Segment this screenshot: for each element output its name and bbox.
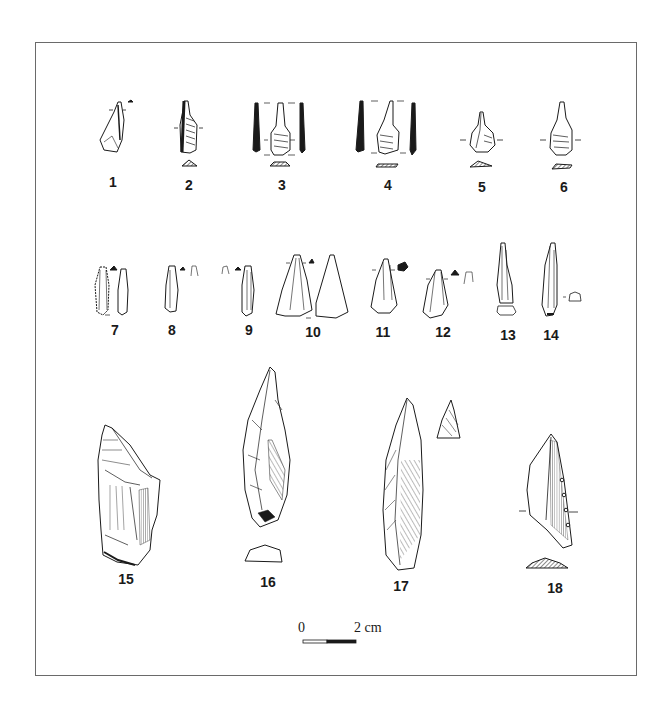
artifact-3	[253, 103, 305, 166]
artifact-label-15: 15	[118, 571, 134, 587]
artifact-label-1: 1	[109, 174, 117, 190]
artifact-12	[423, 270, 473, 318]
artifact-label-12: 12	[435, 324, 451, 340]
scale-start-label: 0	[298, 620, 305, 636]
artifact-label-17: 17	[393, 578, 409, 594]
artifact-label-13: 13	[500, 327, 516, 343]
artifact-15	[98, 425, 160, 565]
artifact-label-10: 10	[305, 324, 321, 340]
artifact-13	[497, 243, 516, 315]
artifact-7	[95, 266, 128, 315]
artifact-drawings	[0, 0, 671, 709]
artifact-label-7: 7	[111, 322, 119, 338]
artifact-label-3: 3	[278, 177, 286, 193]
artifact-label-16: 16	[260, 574, 276, 590]
artifact-2	[174, 101, 203, 166]
artifact-label-18: 18	[547, 580, 563, 596]
artifact-4	[356, 101, 416, 167]
artifact-1	[100, 100, 133, 152]
artifact-5	[460, 112, 503, 167]
artifact-11	[371, 259, 408, 313]
artifact-17	[383, 398, 460, 570]
artifact-label-6: 6	[560, 179, 568, 195]
artifact-label-8: 8	[168, 322, 176, 338]
artifact-label-14: 14	[543, 327, 559, 343]
artifact-label-9: 9	[245, 322, 253, 338]
artifact-9	[222, 266, 254, 316]
artifact-16	[243, 367, 290, 562]
artifact-label-11: 11	[376, 324, 391, 340]
scale-end-label: 2 cm	[354, 620, 382, 636]
artifact-label-4: 4	[384, 177, 392, 193]
artifact-label-2: 2	[185, 177, 193, 193]
artifact-10	[276, 255, 348, 318]
artifact-8	[165, 266, 198, 312]
artifact-14	[542, 243, 581, 316]
artifact-label-5: 5	[478, 179, 486, 195]
artifact-6	[540, 102, 581, 169]
artifact-18	[519, 434, 578, 568]
scale-bar	[303, 640, 356, 643]
